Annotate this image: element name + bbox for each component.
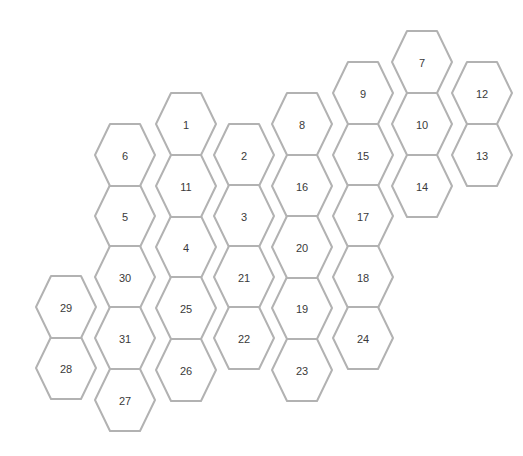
- hex-cell-label: 4: [183, 242, 189, 254]
- hex-cell-12[interactable]: 12: [452, 62, 512, 124]
- hex-cell-label: 31: [119, 333, 131, 345]
- hexagon-grid-container: 1234567891011121314151617181920212223242…: [0, 0, 523, 456]
- hex-cell-label: 27: [119, 395, 131, 407]
- hex-cell-label: 28: [60, 363, 72, 375]
- hex-cell-label: 24: [357, 333, 369, 345]
- hex-cell-16[interactable]: 16: [272, 155, 332, 217]
- hex-cell-6[interactable]: 6: [95, 124, 155, 186]
- hex-cell-4[interactable]: 4: [156, 216, 216, 278]
- hex-cell-label: 19: [296, 303, 308, 315]
- hex-cell-18[interactable]: 18: [333, 246, 393, 308]
- hex-cell-5[interactable]: 5: [95, 185, 155, 247]
- hex-cell-17[interactable]: 17: [333, 185, 393, 247]
- hex-cell-label: 20: [296, 242, 308, 254]
- hex-cell-label: 15: [357, 150, 369, 162]
- hex-cell-2[interactable]: 2: [214, 124, 274, 186]
- hex-cell-label: 8: [299, 119, 305, 131]
- hex-cell-21[interactable]: 21: [214, 246, 274, 308]
- hex-cell-label: 5: [122, 211, 128, 223]
- hex-cell-label: 17: [357, 211, 369, 223]
- hex-cell-19[interactable]: 19: [272, 277, 332, 339]
- hex-cell-13[interactable]: 13: [452, 124, 512, 186]
- hex-cell-3[interactable]: 3: [214, 185, 274, 247]
- hex-cell-label: 2: [241, 150, 247, 162]
- hex-cell-20[interactable]: 20: [272, 216, 332, 278]
- hex-cell-label: 16: [296, 181, 308, 193]
- hex-cell-14[interactable]: 14: [392, 155, 452, 217]
- hex-cell-label: 26: [180, 365, 192, 377]
- hex-cell-label: 9: [360, 88, 366, 100]
- hex-cell-label: 7: [419, 57, 425, 69]
- hex-cell-11[interactable]: 11: [156, 155, 216, 217]
- hex-cell-label: 3: [241, 211, 247, 223]
- hex-cell-label: 14: [416, 181, 428, 193]
- hexagon-cell-layer: 1234567891011121314151617181920212223242…: [36, 31, 512, 431]
- hex-cell-30[interactable]: 30: [95, 246, 155, 308]
- hex-cell-label: 29: [60, 302, 72, 314]
- hex-cell-label: 10: [416, 119, 428, 131]
- hex-cell-22[interactable]: 22: [214, 307, 274, 369]
- hex-cell-label: 18: [357, 272, 369, 284]
- hex-cell-8[interactable]: 8: [272, 93, 332, 155]
- hex-cell-7[interactable]: 7: [392, 31, 452, 93]
- hex-cell-10[interactable]: 10: [392, 93, 452, 155]
- hex-cell-label: 1: [183, 119, 189, 131]
- hex-cell-23[interactable]: 23: [272, 339, 332, 401]
- hex-cell-9[interactable]: 9: [333, 62, 393, 124]
- hex-cell-label: 21: [238, 272, 250, 284]
- hex-cell-label: 12: [476, 88, 488, 100]
- hex-cell-label: 22: [238, 333, 250, 345]
- hex-cell-28[interactable]: 28: [36, 337, 96, 399]
- hex-cell-26[interactable]: 26: [156, 339, 216, 401]
- hex-cell-15[interactable]: 15: [333, 124, 393, 186]
- hex-cell-29[interactable]: 29: [36, 276, 96, 338]
- hexagon-grid-canvas: 1234567891011121314151617181920212223242…: [0, 0, 523, 456]
- hex-cell-label: 6: [122, 150, 128, 162]
- hex-cell-25[interactable]: 25: [156, 277, 216, 339]
- hex-cell-label: 13: [476, 150, 488, 162]
- hex-cell-27[interactable]: 27: [95, 369, 155, 431]
- hex-cell-31[interactable]: 31: [95, 307, 155, 369]
- hex-cell-label: 25: [180, 303, 192, 315]
- hex-cell-24[interactable]: 24: [333, 307, 393, 369]
- hex-cell-label: 23: [296, 365, 308, 377]
- hex-cell-label: 30: [119, 272, 131, 284]
- hex-cell-label: 11: [180, 181, 191, 193]
- hex-cell-1[interactable]: 1: [156, 93, 216, 155]
